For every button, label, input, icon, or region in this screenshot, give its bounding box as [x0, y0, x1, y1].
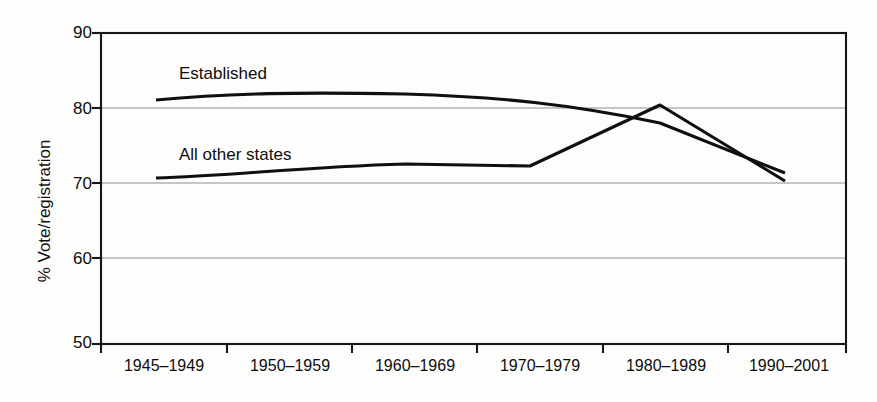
x-tick-label-1960-1969: 1960–1969 [375, 357, 455, 375]
x-tick-label-1980-1989: 1980–1989 [626, 357, 706, 375]
x-tick-label-1950-1959: 1950–1959 [250, 357, 330, 375]
plot-area [0, 0, 877, 402]
series-line-all-other-states [156, 105, 785, 181]
series-annotation-established: Established [179, 64, 267, 84]
x-axis-tick-labels: 1945–1949 1950–1959 1960–1969 1970–1979 … [0, 357, 877, 381]
x-tick-label-1990-2001: 1990–2001 [749, 357, 829, 375]
x-tick-label-1945-1949: 1945–1949 [124, 357, 204, 375]
series-annotation-all-other-states: All other states [179, 145, 291, 165]
y-axis-ticks [92, 33, 101, 344]
x-tick-label-1970-1979: 1970–1979 [500, 357, 580, 375]
gridlines [101, 108, 846, 258]
x-axis-ticks [101, 344, 846, 353]
line-chart-figure: % Vote/registration 90 80 70 60 50 [0, 0, 877, 402]
